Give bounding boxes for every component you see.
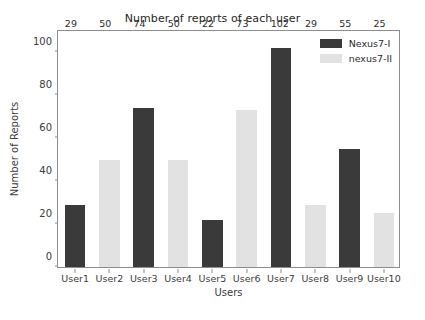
bar-slot: 50 (168, 31, 189, 267)
bar-value-label: 74 (133, 18, 145, 29)
legend-item[interactable]: nexus7-II (320, 53, 392, 64)
x-axis-tick-mark (212, 269, 213, 273)
plot-area: Number of Reports 020406080100 295074502… (57, 30, 400, 268)
x-axis-tick-label: User2 (96, 273, 124, 284)
bar-value-label: 25 (374, 18, 386, 29)
chart-legend: Nexus7-Inexus7-II (317, 36, 395, 66)
bar-value-label: 50 (168, 18, 180, 29)
bar[interactable]: 22 (202, 220, 223, 267)
y-axis-tick-label: 40 (39, 165, 58, 176)
x-axis-tick-label: User4 (164, 273, 192, 284)
bar[interactable]: 29 (305, 205, 326, 267)
x-axis-tick-mark (75, 269, 76, 273)
y-axis-tick-label: 100 (33, 36, 58, 47)
bar-slot: 50 (99, 31, 120, 267)
x-axis-tick-label: User9 (336, 273, 364, 284)
bar[interactable]: 50 (99, 160, 120, 267)
bar[interactable]: 50 (168, 160, 189, 267)
x-axis-tick-mark (383, 269, 384, 273)
x-axis-tick-mark (349, 269, 350, 273)
bar-slot: 22 (202, 31, 223, 267)
bar-value-label: 50 (99, 18, 111, 29)
bar-slot: 55 (339, 31, 360, 267)
legend-swatch (320, 39, 342, 48)
bar-slot: 29 (305, 31, 326, 267)
y-axis-tick-label: 80 (39, 79, 58, 90)
x-axis-tick-mark (280, 269, 281, 273)
bar-value-label: 73 (236, 18, 248, 29)
x-axis-tick-mark (178, 269, 179, 273)
bar-chart-figure: Number of reports of each user Number of… (0, 0, 425, 320)
x-axis-tick-label: User7 (267, 273, 295, 284)
legend-item[interactable]: Nexus7-I (320, 38, 392, 49)
bar-slot: 74 (133, 31, 154, 267)
bar-value-label: 55 (339, 18, 351, 29)
y-axis-tick-label: 20 (39, 208, 58, 219)
y-axis-tick-label: 0 (46, 251, 58, 262)
x-axis-tick-label: User8 (301, 273, 329, 284)
bar[interactable]: 29 (65, 205, 86, 267)
y-axis-tick-label: 60 (39, 122, 58, 133)
bar-value-label: 29 (65, 18, 77, 29)
bar-slot: 25 (374, 31, 395, 267)
x-axis-tick-mark (109, 269, 110, 273)
x-axis-tick-label: User3 (130, 273, 158, 284)
bar[interactable]: 102 (271, 48, 292, 267)
bar-value-label: 29 (305, 18, 317, 29)
bar-slot: 29 (65, 31, 86, 267)
x-axis-tick-label: User1 (61, 273, 89, 284)
legend-label: Nexus7-I (349, 38, 391, 49)
bar[interactable]: 25 (374, 213, 395, 267)
x-axis-tick-label: User6 (233, 273, 261, 284)
bar-slot: 102 (271, 31, 292, 267)
legend-label: nexus7-II (349, 53, 392, 64)
x-axis-label: Users (214, 287, 242, 298)
bar-value-label: 102 (271, 18, 289, 29)
x-axis-tick-mark (246, 269, 247, 273)
bar-value-label: 22 (202, 18, 214, 29)
bar-group: 295074502273102295525 (58, 31, 399, 267)
bar-slot: 73 (236, 31, 257, 267)
x-axis-tick-mark (315, 269, 316, 273)
y-axis-label: Number of Reports (9, 102, 20, 197)
bar[interactable]: 74 (133, 108, 154, 267)
x-axis-tick-label: User5 (198, 273, 226, 284)
bar[interactable]: 73 (236, 110, 257, 267)
bar[interactable]: 55 (339, 149, 360, 267)
x-axis-tick-mark (143, 269, 144, 273)
legend-swatch (320, 54, 342, 63)
x-axis-tick-label: User10 (367, 273, 401, 284)
